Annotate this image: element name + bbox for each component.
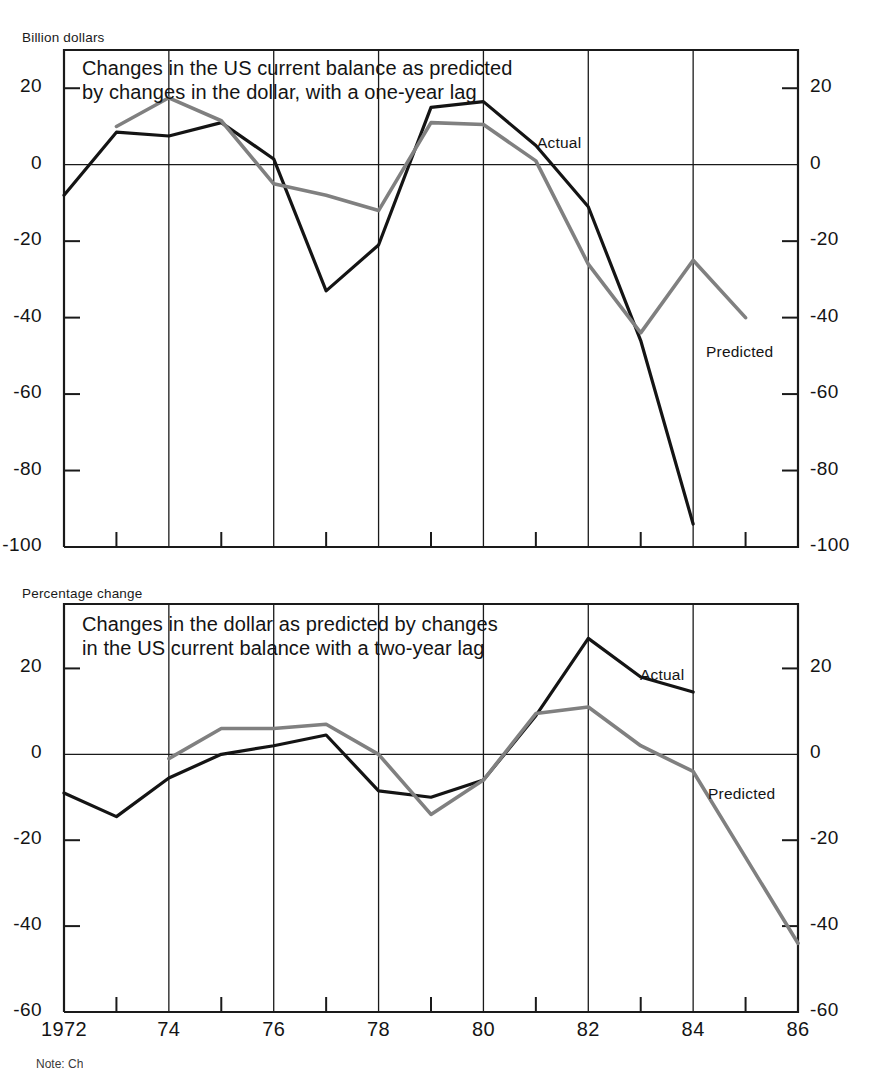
y-axis-tick-label-right: -80 (810, 458, 839, 480)
y-axis-tick-label-right: 20 (810, 655, 832, 677)
y-axis-tick-label-left: 20 (0, 655, 42, 677)
x-axis-tick-label: 86 (753, 1018, 843, 1041)
figure-footnote: Note: Ch (36, 1057, 83, 1069)
y-axis-tick-label-left: -20 (0, 228, 42, 250)
y-axis-tick-label-left: 0 (0, 152, 42, 174)
y-axis-tick-label-right: -20 (810, 228, 839, 250)
x-axis-tick-label: 76 (229, 1018, 319, 1041)
y-axis-tick-label-right: 0 (810, 741, 821, 763)
y-axis-tick-label-left: -40 (0, 305, 42, 327)
bottom-panel (0, 598, 872, 1018)
y-axis-tick-label-left: -80 (0, 458, 42, 480)
y-axis-tick-label-right: -20 (810, 827, 839, 849)
y-axis-tick-label-right: -40 (810, 913, 839, 935)
bottom-panel-plot (0, 598, 872, 1018)
y-axis-tick-label-right: -60 (810, 381, 839, 403)
y-axis-tick-label-left: -60 (0, 999, 42, 1021)
x-axis-tick-label: 1972 (19, 1018, 109, 1041)
y-axis-tick-label-left: -40 (0, 913, 42, 935)
y-axis-tick-label-left: 20 (0, 75, 42, 97)
top-panel-actual-label: Actual (537, 134, 581, 152)
y-axis-tick-label-left: 0 (0, 741, 42, 763)
y-axis-tick-label-left: -60 (0, 381, 42, 403)
y-axis-tick-label-left: -100 (0, 534, 42, 556)
x-axis-tick-label: 80 (438, 1018, 528, 1041)
top-panel-title: Changes in the US current balance as pre… (82, 56, 552, 104)
y-axis-tick-label-right: -100 (810, 534, 850, 556)
top-panel-unit-label: Billion dollars (22, 30, 105, 45)
y-axis-tick-label-right: -60 (810, 999, 839, 1021)
x-axis-tick-label: 78 (334, 1018, 424, 1041)
x-axis-tick-label: 82 (543, 1018, 633, 1041)
x-axis-tick-label: 74 (124, 1018, 214, 1041)
bottom-panel-actual-label: Actual (640, 666, 684, 684)
y-axis-tick-label-right: -40 (810, 305, 839, 327)
y-axis-tick-label-right: 0 (810, 152, 821, 174)
top-panel-predicted-label: Predicted (706, 343, 773, 361)
bottom-panel-title: Changes in the dollar as predicted by ch… (82, 612, 552, 660)
x-axis-tick-label: 84 (648, 1018, 738, 1041)
top-panel (0, 44, 872, 554)
y-axis-tick-label-right: 20 (810, 75, 832, 97)
y-axis-tick-label-left: -20 (0, 827, 42, 849)
figure-page: Billion dollars Changes in the US curren… (0, 0, 872, 1069)
bottom-panel-predicted-label: Predicted (708, 785, 775, 803)
top-panel-plot (0, 44, 872, 554)
